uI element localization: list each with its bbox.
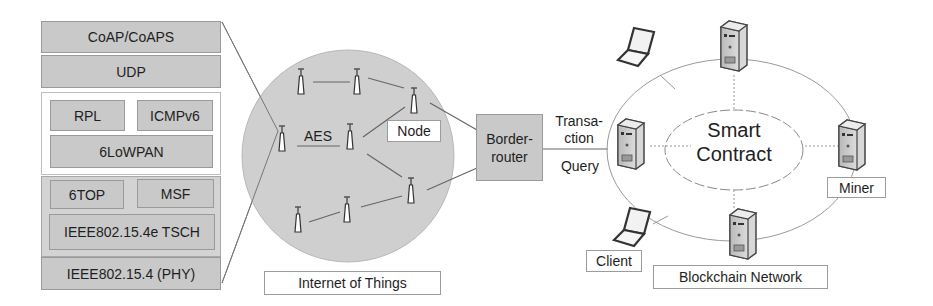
- client-label: Client: [586, 250, 642, 272]
- layer-icmpv6-label: ICMPv6: [150, 108, 200, 124]
- smart-contract-line1: Smart: [684, 118, 784, 142]
- layer-phy: IEEE802.15.4 (PHY): [41, 257, 221, 290]
- layer-6top-label: 6TOP: [69, 187, 105, 203]
- miner-label-text: Miner: [839, 180, 874, 196]
- layer-coap-label: CoAP/CoAPS: [88, 29, 174, 45]
- transaction-label: Transa- ction: [548, 113, 610, 147]
- layer-udp-label: UDP: [116, 64, 146, 80]
- border-router: Border- router: [476, 114, 543, 181]
- blockchain-caption: Blockchain Network: [653, 265, 828, 289]
- smart-contract-label: Smart Contract: [684, 118, 784, 166]
- layer-rpl-label: RPL: [74, 108, 101, 124]
- miner-label: Miner: [827, 177, 886, 198]
- border-router-line2: router: [491, 148, 528, 166]
- layer-6lowpan: 6LoWPAN: [50, 135, 213, 168]
- layer-tsch: IEEE802.15.4e TSCH: [49, 214, 215, 250]
- border-router-line1: Border-: [486, 130, 533, 148]
- layer-phy-label: IEEE802.15.4 (PHY): [67, 266, 195, 282]
- transaction-line2: ction: [548, 130, 610, 147]
- layer-6lowpan-label: 6LoWPAN: [99, 144, 163, 160]
- smart-contract-line2: Contract: [684, 142, 784, 166]
- layer-6top: 6TOP: [50, 180, 124, 209]
- laptop-icon: [630, 30, 631, 31]
- layer-msf: MSF: [137, 179, 214, 208]
- server-icon: [620, 125, 621, 126]
- layer-msf-label: MSF: [161, 186, 191, 202]
- layer-tsch-label: IEEE802.15.4e TSCH: [64, 224, 200, 240]
- layer-udp: UDP: [41, 55, 221, 88]
- iot-caption: Internet of Things: [264, 271, 441, 295]
- layer-coap: CoAP/CoAPS: [41, 21, 221, 53]
- iot-caption-text: Internet of Things: [298, 275, 407, 291]
- antenna-tower-icon: [280, 125, 281, 126]
- layer-rpl: RPL: [50, 100, 125, 131]
- node-label: Node: [387, 120, 441, 142]
- client-label-text: Client: [596, 253, 632, 269]
- transaction-line1: Transa-: [548, 113, 610, 130]
- node-label-text: Node: [397, 123, 430, 139]
- aes-label: AES: [298, 128, 338, 145]
- layer-icmpv6: ICMPv6: [137, 100, 213, 131]
- blockchain-caption-text: Blockchain Network: [679, 269, 802, 285]
- query-label: Query: [554, 158, 606, 175]
